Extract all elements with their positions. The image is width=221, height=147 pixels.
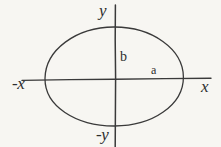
x-positive-axis-label: x: [201, 78, 208, 95]
semi-minor-axis-label: b: [120, 50, 127, 64]
ellipse-diagram-svg: [0, 0, 221, 147]
y-negative-axis-label: -y: [96, 126, 109, 143]
semi-major-axis-label: a: [151, 64, 156, 76]
y-positive-axis-label: y: [99, 2, 106, 19]
x-negative-axis-label: -x: [12, 75, 25, 92]
ellipse-curve: [45, 27, 183, 126]
x-axis-line: [22, 78, 211, 80]
figure-canvas: y -y -x x b a: [0, 0, 221, 147]
